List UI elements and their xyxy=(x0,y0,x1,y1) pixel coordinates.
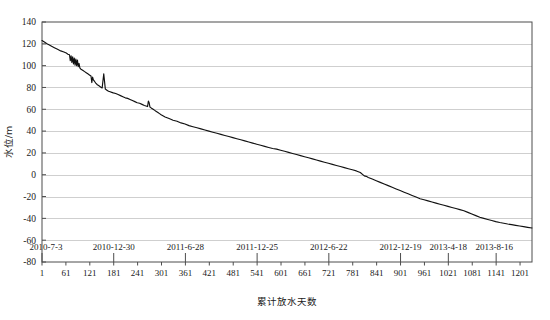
x-axis-date-label: 2013-8-16 xyxy=(475,242,513,252)
x-axis-tick-label: 1021 xyxy=(439,268,457,278)
x-axis-tick-label: 901 xyxy=(394,268,408,278)
y-axis-tick-label: -80 xyxy=(23,257,36,267)
x-axis-title: 累计放水天数 xyxy=(257,296,317,307)
x-axis-tick-label: 961 xyxy=(418,268,432,278)
x-axis-date-label: 2012-12-19 xyxy=(380,242,422,252)
y-axis-tick-label: -40 xyxy=(23,214,36,224)
chart-figure: 140120100806040200-20-40-60-80 161121181… xyxy=(0,0,550,320)
x-axis-tick-label: 481 xyxy=(226,268,240,278)
x-axis-tick-label: 541 xyxy=(250,268,264,278)
x-axis-tick-label: 121 xyxy=(83,268,97,278)
x-axis-tick-label: 841 xyxy=(370,268,384,278)
y-axis-tick-label: 140 xyxy=(22,17,37,27)
y-axis-tick-label: 40 xyxy=(27,126,37,136)
y-axis-tick-label: 100 xyxy=(22,61,37,71)
y-axis-tick-label: 60 xyxy=(27,105,37,115)
x-axis-tick-label: 361 xyxy=(179,268,193,278)
x-axis-date-label: 2013-4-18 xyxy=(430,242,468,252)
y-axis-title: 水位/m xyxy=(3,126,14,158)
y-axis-tick-label: 80 xyxy=(27,83,37,93)
x-axis-ticks: 1611211812413013614214815416016617217818… xyxy=(40,262,529,278)
y-axis-tick-label: 20 xyxy=(27,148,37,158)
y-axis-tick-label: 120 xyxy=(22,39,37,49)
x-axis-tick-label: 1141 xyxy=(487,268,505,278)
x-axis-tick-label: 601 xyxy=(274,268,288,278)
x-axis-date-label: 2010-12-30 xyxy=(93,242,135,252)
x-axis-tick-label: 781 xyxy=(346,268,360,278)
x-axis-date-label: 2010-7-3 xyxy=(30,242,63,252)
plot-background xyxy=(42,22,532,262)
x-axis-tick-label: 301 xyxy=(155,268,169,278)
x-axis-tick-label: 721 xyxy=(322,268,336,278)
x-axis-tick-label: 421 xyxy=(203,268,217,278)
water-level-line-chart: 140120100806040200-20-40-60-80 161121181… xyxy=(0,0,550,320)
x-axis-date-label: 2011-6-28 xyxy=(167,242,205,252)
y-axis-tick-label: -20 xyxy=(23,192,36,202)
x-axis-tick-label: 61 xyxy=(61,268,70,278)
x-axis-date-label: 2012-6-22 xyxy=(310,242,348,252)
y-axis-tick-label: 0 xyxy=(31,170,36,180)
x-axis-tick-label: 1201 xyxy=(511,268,529,278)
x-axis-tick-label: 241 xyxy=(131,268,145,278)
x-axis-tick-label: 181 xyxy=(107,268,121,278)
x-axis-tick-label: 1081 xyxy=(463,268,481,278)
x-axis-tick-label: 661 xyxy=(298,268,312,278)
x-axis-date-label: 2011-12-25 xyxy=(236,242,278,252)
x-axis-tick-label: 1 xyxy=(40,268,45,278)
